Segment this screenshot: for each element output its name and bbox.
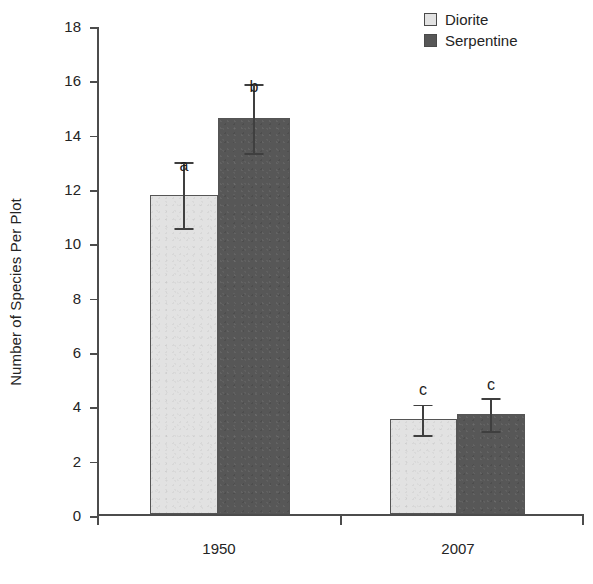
errorbar-cap-top xyxy=(413,405,432,407)
x-axis-label-1950: 1950 xyxy=(202,540,235,557)
bar-1950-diorite xyxy=(150,195,218,514)
y-axis-line xyxy=(97,27,99,516)
x-tick-right xyxy=(582,515,584,525)
y-tick-label-14: 14 xyxy=(64,127,81,144)
y-tick-12: 12 xyxy=(90,190,98,192)
bar-1950-serpentine xyxy=(218,118,290,515)
y-axis-title: Number of Species Per Plot xyxy=(0,0,30,584)
errorbar-2007-diorite xyxy=(422,405,424,438)
y-tick-label-12: 12 xyxy=(64,181,81,198)
y-tick-label-10: 10 xyxy=(64,235,81,252)
y-tick-label-0: 0 xyxy=(73,507,81,524)
sig-label-2007-serpentine: c xyxy=(487,376,495,394)
errorbar-cap-bottom xyxy=(174,228,193,230)
x-tick-left xyxy=(97,515,99,525)
legend-item-diorite: Diorite xyxy=(424,12,518,27)
y-tick-label-4: 4 xyxy=(73,398,81,415)
legend-swatch-diorite xyxy=(424,13,437,26)
legend-label-diorite: Diorite xyxy=(445,12,488,27)
y-tick-16: 16 xyxy=(90,81,98,83)
errorbar-cap-top xyxy=(481,398,500,400)
y-tick-2: 2 xyxy=(90,462,98,464)
y-tick-10: 10 xyxy=(90,244,98,246)
sig-label-2007-diorite: c xyxy=(419,381,427,399)
y-tick-label-16: 16 xyxy=(64,72,81,89)
y-tick-8: 8 xyxy=(90,299,98,301)
errorbar-2007-serpentine xyxy=(490,398,492,433)
y-tick-14: 14 xyxy=(90,136,98,138)
sig-label-1950-serpentine: b xyxy=(250,78,259,96)
y-tick-6: 6 xyxy=(90,353,98,355)
plot-area: 18 16 14 12 10 8 6 4 2 0 xyxy=(97,27,584,516)
errorbar-cap-bottom xyxy=(244,153,263,155)
y-tick-4: 4 xyxy=(90,407,98,409)
bar-chart: Diorite Serpentine Number of Species Per… xyxy=(0,0,593,584)
sig-label-1950-diorite: a xyxy=(180,157,189,175)
y-tick-label-18: 18 xyxy=(64,18,81,35)
errorbar-cap-bottom xyxy=(413,435,432,437)
y-tick-18: 18 xyxy=(90,27,98,29)
x-tick-middle xyxy=(340,515,342,525)
y-tick-label-8: 8 xyxy=(73,290,81,307)
errorbar-cap-bottom xyxy=(481,431,500,433)
x-axis-label-2007: 2007 xyxy=(441,540,474,557)
y-tick-label-2: 2 xyxy=(73,453,81,470)
y-tick-label-6: 6 xyxy=(73,344,81,361)
